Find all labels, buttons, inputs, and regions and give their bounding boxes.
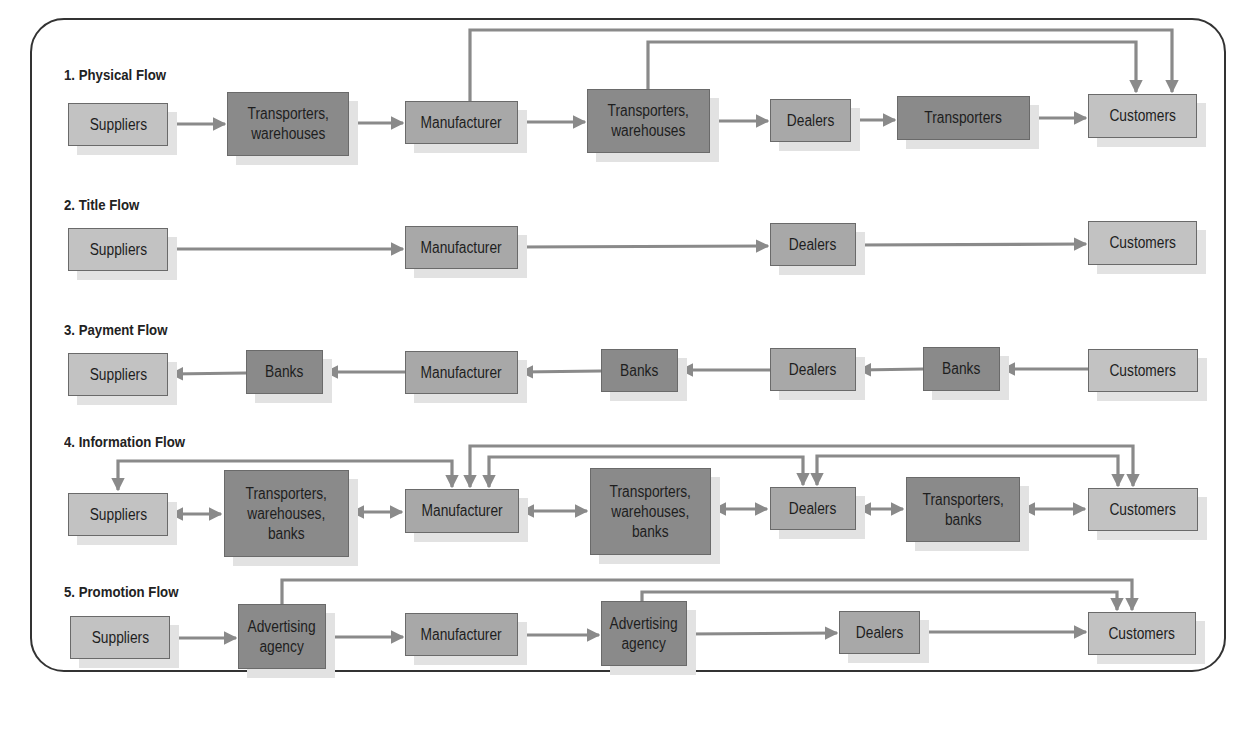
promotion-suppliers-node: Suppliers <box>70 616 170 659</box>
node-label: Dealers <box>787 111 834 131</box>
node-label: Advertising agency <box>248 617 316 657</box>
title-customers-node: Customers <box>1088 221 1197 265</box>
information-transporters-warehouses-banks-node-2: Transporters, warehouses, banks <box>590 468 711 555</box>
node-label: Banks <box>265 362 303 382</box>
node-label: Transporters, banks <box>922 490 1003 530</box>
payment-flow-title: 3. Payment Flow <box>64 321 167 338</box>
physical-dealers-node: Dealers <box>770 99 851 142</box>
node-label: Customers <box>1109 106 1176 126</box>
node-label: Transporters, warehouses, banks <box>610 482 691 542</box>
payment-customers-node: Customers <box>1088 349 1198 392</box>
promotion-manufacturer-node: Manufacturer <box>405 613 518 656</box>
node-label: Dealers <box>789 235 836 255</box>
node-label: Customers <box>1110 500 1177 520</box>
title-suppliers-node: Suppliers <box>68 228 168 271</box>
payment-manufacturer-node: Manufacturer <box>405 351 518 394</box>
node-label: Manufacturer <box>421 238 502 258</box>
node-label: Banks <box>620 361 658 381</box>
node-label: Suppliers <box>89 240 146 260</box>
payment-suppliers-node: Suppliers <box>68 353 168 396</box>
node-label: Manufacturer <box>421 501 502 521</box>
node-label: Advertising agency <box>610 614 678 654</box>
promotion-flow-title: 5. Promotion Flow <box>64 583 178 600</box>
promotion-advertising-agency-node-1: Advertising agency <box>238 604 326 669</box>
promotion-customers-node: Customers <box>1088 612 1196 655</box>
physical-transporters-node: Transporters <box>897 96 1030 140</box>
node-label: Customers <box>1110 361 1177 381</box>
information-transporters-warehouses-banks-node-1: Transporters, warehouses, banks <box>224 470 349 557</box>
node-label: Transporters, warehouses <box>608 101 689 141</box>
physical-manufacturer-node: Manufacturer <box>405 101 518 144</box>
payment-banks-node-1: Banks <box>246 350 323 394</box>
information-dealers-node: Dealers <box>770 487 856 530</box>
node-label: Transporters <box>925 108 1002 128</box>
information-manufacturer-node: Manufacturer <box>405 489 519 533</box>
information-flow-title: 4. Information Flow <box>64 433 185 450</box>
physical-transporters-warehouses-node-2: Transporters, warehouses <box>587 89 710 153</box>
title-flow-title: 2. Title Flow <box>64 196 139 213</box>
information-customers-node: Customers <box>1088 488 1198 531</box>
payment-banks-node-2: Banks <box>601 349 678 392</box>
payment-dealers-node: Dealers <box>770 348 856 391</box>
node-label: Suppliers <box>89 505 146 525</box>
node-label: Customers <box>1109 233 1176 253</box>
node-label: Manufacturer <box>421 625 502 645</box>
physical-flow-title: 1. Physical Flow <box>64 66 166 83</box>
node-label: Suppliers <box>91 628 148 648</box>
physical-customers-node: Customers <box>1088 94 1197 138</box>
node-label: Dealers <box>856 623 903 643</box>
promotion-advertising-agency-node-2: Advertising agency <box>601 601 687 666</box>
payment-banks-node-3: Banks <box>923 347 1000 391</box>
information-transporters-banks-node: Transporters, banks <box>906 477 1020 542</box>
node-label: Manufacturer <box>421 113 502 133</box>
node-label: Dealers <box>789 499 836 519</box>
node-label: Transporters, warehouses <box>247 104 328 144</box>
node-label: Suppliers <box>89 365 146 385</box>
title-manufacturer-node: Manufacturer <box>405 226 518 269</box>
node-label: Banks <box>942 359 980 379</box>
promotion-dealers-node: Dealers <box>839 611 920 654</box>
node-label: Transporters, warehouses, banks <box>246 484 327 544</box>
node-label: Suppliers <box>89 115 146 135</box>
physical-transporters-warehouses-node-1: Transporters, warehouses <box>227 92 349 156</box>
node-label: Manufacturer <box>421 363 502 383</box>
title-dealers-node: Dealers <box>770 223 856 266</box>
node-label: Customers <box>1109 624 1176 644</box>
physical-suppliers-node: Suppliers <box>68 103 168 146</box>
node-label: Dealers <box>789 360 836 380</box>
information-suppliers-node: Suppliers <box>68 493 168 536</box>
